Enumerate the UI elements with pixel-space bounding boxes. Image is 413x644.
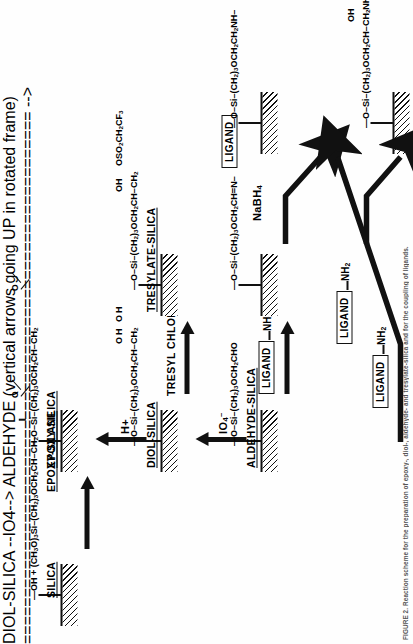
figure-caption: FIGURE 2. Reaction scheme for the prepar…	[402, 20, 409, 640]
arrow-schiff-to-amine-product	[285, 157, 320, 244]
connector-arrows-overlay: amine product (bent) --> hydroxy-amine p…	[0, 0, 413, 644]
rotated-page-wrapper: —OH + (CH3O)3Si–(CH2)3OCH2CH–CH2 O SILIC…	[0, 0, 413, 644]
reaction-scheme-diagram: —OH + (CH3O)3Si–(CH2)3OCH2CH–CH2 O SILIC…	[0, 0, 413, 644]
arrow-tresylate-to-product	[366, 157, 400, 244]
